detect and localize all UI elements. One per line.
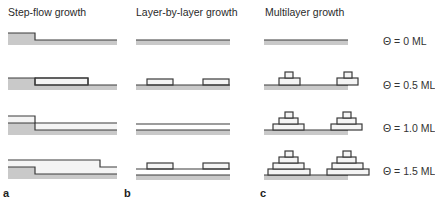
multilayer-row-1	[264, 72, 358, 90]
coverage-label-1-5: Θ = 1.5 ML	[383, 165, 435, 177]
multilayer-row-2	[264, 112, 362, 135]
panel-letter-b: b	[124, 187, 131, 199]
growth-mode-diagram	[0, 0, 435, 205]
layer-by-layer-row-1	[136, 79, 230, 90]
panel-letter-c: c	[260, 187, 266, 199]
step-flow-row-0	[8, 33, 117, 45]
step-flow-row-1	[8, 78, 117, 90]
layer-by-layer-row-3	[136, 163, 230, 180]
multilayer-row-0	[264, 40, 348, 45]
coverage-label-1-0: Θ = 1.0 ML	[383, 122, 435, 134]
layer-by-layer-row-0	[136, 40, 230, 45]
layer-by-layer-row-2	[136, 124, 230, 135]
coverage-label-0-5: Θ = 0.5 ML	[383, 79, 435, 91]
panel-letter-a: a	[3, 187, 9, 199]
coverage-label-0: Θ = 0 ML	[383, 35, 426, 47]
step-flow-row-2	[8, 116, 117, 135]
multilayer-row-3	[264, 151, 369, 180]
step-flow-row-3	[8, 160, 117, 179]
